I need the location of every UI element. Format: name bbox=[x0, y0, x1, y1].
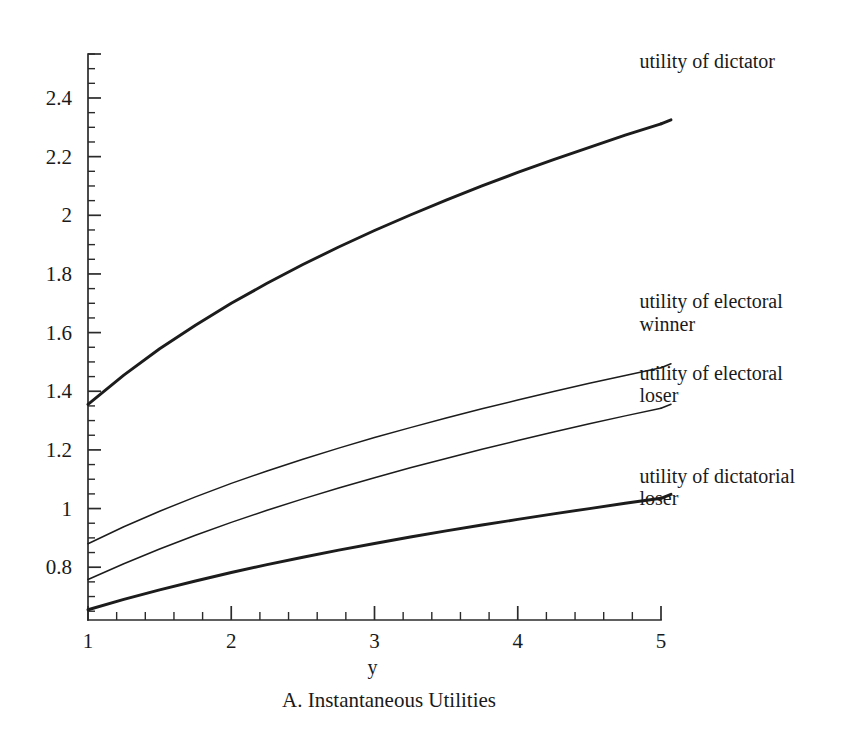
x-axis-tick-label: 5 bbox=[656, 631, 667, 652]
x-axis-tick-label: 4 bbox=[513, 631, 524, 652]
series-curve-3 bbox=[88, 498, 661, 609]
y-axis-tick-label: 2.4 bbox=[10, 88, 72, 109]
axes-group bbox=[88, 54, 661, 620]
x-axis-tick-label: 3 bbox=[369, 631, 380, 652]
series-curve-0 bbox=[88, 124, 661, 405]
figure-caption: A. Instantaneous Utilities bbox=[282, 688, 496, 713]
y-axis-tick-label: 1 bbox=[10, 498, 72, 519]
y-axis-tick-label: 1.8 bbox=[10, 263, 72, 284]
series-leader-0 bbox=[661, 120, 671, 124]
series-curve-1 bbox=[88, 368, 661, 544]
series-label-2: utility of electoral loser bbox=[640, 362, 783, 407]
y-axis-tick-label: 0.8 bbox=[10, 557, 72, 578]
series-label-3: utility of dictatorial loser bbox=[640, 465, 796, 510]
figure-panel: 0.811.21.41.61.822.22.4 12345 utility of… bbox=[0, 0, 868, 746]
series-curve-2 bbox=[88, 408, 661, 579]
y-axis-tick-label: 1.4 bbox=[10, 381, 72, 402]
series-label-0: utility of dictator bbox=[640, 50, 776, 72]
x-axis-tick-label: 1 bbox=[83, 631, 94, 652]
curves-group bbox=[88, 120, 671, 610]
series-label-1: utility of electoral winner bbox=[640, 290, 783, 335]
y-axis-tick-label: 2 bbox=[10, 205, 72, 226]
x-axis-tick-label: 2 bbox=[226, 631, 237, 652]
x-axis-title: y bbox=[368, 656, 378, 679]
y-axis-tick-label: 1.2 bbox=[10, 439, 72, 460]
y-axis-tick-label: 1.6 bbox=[10, 322, 72, 343]
y-axis-tick-label: 2.2 bbox=[10, 146, 72, 167]
